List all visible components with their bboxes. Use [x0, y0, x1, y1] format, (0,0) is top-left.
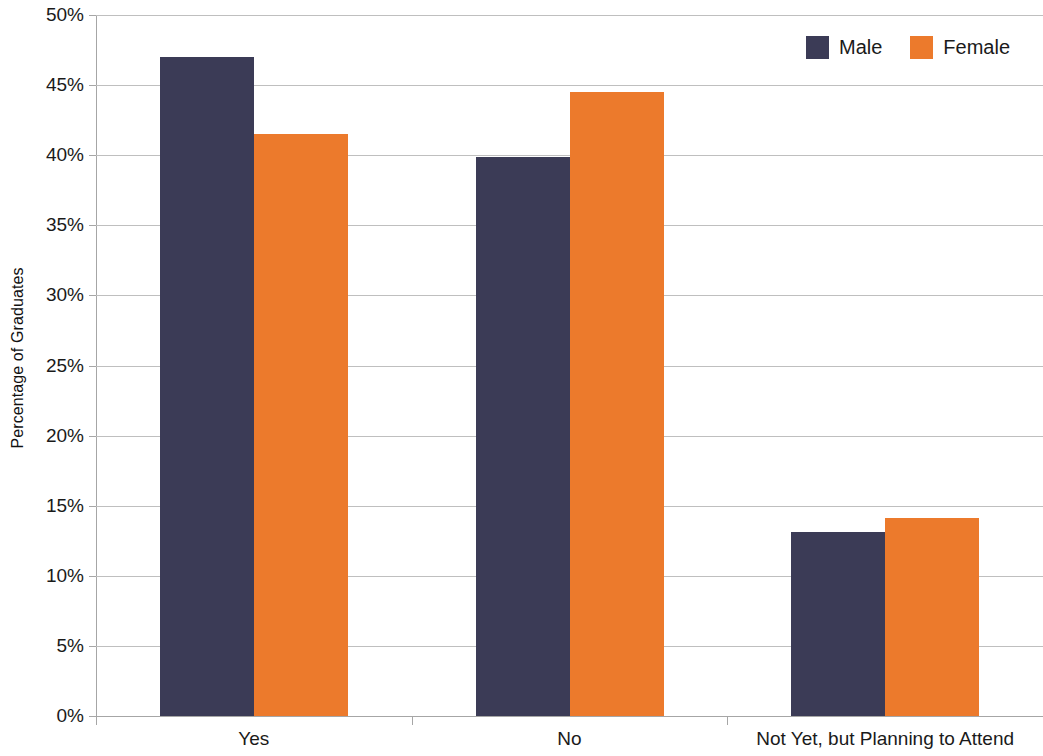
- y-axis-tick-mark: [89, 366, 96, 367]
- y-axis-tick-mark: [89, 506, 96, 507]
- x-axis-category-tick: [727, 716, 728, 725]
- bar-male-2: [791, 532, 885, 716]
- y-axis-tick-mark: [89, 716, 96, 717]
- gridline: [96, 15, 1043, 16]
- x-axis-origin-tick: [96, 716, 97, 725]
- legend-item-female[interactable]: Female: [910, 36, 1010, 59]
- y-axis-tick-label: 50%: [10, 4, 84, 26]
- y-axis-tick-label: 25%: [10, 355, 84, 377]
- x-axis-category-label: Yes: [238, 728, 269, 750]
- y-axis-tick-label: 20%: [10, 425, 84, 447]
- legend-swatch-icon: [806, 36, 829, 59]
- y-axis-tick-label: 15%: [10, 495, 84, 517]
- x-axis-category-label: No: [557, 728, 581, 750]
- y-axis-tick-mark: [89, 646, 96, 647]
- y-axis-tick-label: 40%: [10, 144, 84, 166]
- plot-area: [96, 15, 1043, 716]
- y-axis-tick-mark: [89, 155, 96, 156]
- bar-male-0: [160, 57, 254, 716]
- bar-chart: Percentage of Graduates 0%5%10%15%20%25%…: [0, 0, 1043, 756]
- legend-item-male[interactable]: Male: [806, 36, 882, 59]
- y-axis-tick-label: 5%: [10, 635, 84, 657]
- y-axis-tick-mark: [89, 295, 96, 296]
- y-axis-tick-mark: [89, 576, 96, 577]
- y-axis-tick-labels: 0%5%10%15%20%25%30%35%40%45%50%: [0, 0, 84, 756]
- y-axis-tick-label: 45%: [10, 74, 84, 96]
- x-axis-baseline: [96, 716, 1043, 717]
- bar-male-1: [476, 157, 570, 716]
- y-axis-tick-label: 10%: [10, 565, 84, 587]
- y-axis-tick-mark: [89, 225, 96, 226]
- y-axis-tick-label: 0%: [10, 705, 84, 727]
- bar-female-2: [885, 518, 979, 716]
- y-axis-tick-mark: [89, 85, 96, 86]
- x-axis-category-label: Not Yet, but Planning to Attend: [756, 728, 1014, 750]
- bar-female-1: [570, 92, 664, 716]
- legend-swatch-icon: [910, 36, 933, 59]
- legend-label: Female: [943, 36, 1010, 59]
- y-axis-tick-mark: [89, 436, 96, 437]
- y-axis-tick-mark: [89, 15, 96, 16]
- x-axis-category-tick: [412, 716, 413, 725]
- legend: MaleFemale: [806, 36, 1010, 59]
- y-axis-tick-label: 35%: [10, 214, 84, 236]
- legend-label: Male: [839, 36, 882, 59]
- y-axis-tick-label: 30%: [10, 284, 84, 306]
- bar-female-0: [254, 134, 348, 716]
